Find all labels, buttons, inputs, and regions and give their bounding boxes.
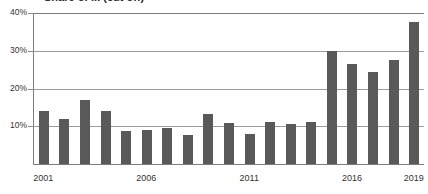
bar	[162, 128, 172, 164]
plot-area	[33, 13, 424, 164]
bar	[327, 51, 337, 164]
y-axis-tick-label: 10%	[1, 121, 27, 130]
bar	[224, 123, 234, 164]
y-tick-mark-30	[28, 51, 34, 52]
bar	[306, 122, 316, 164]
x-axis-tick-label: 2006	[136, 173, 156, 183]
bar	[142, 130, 152, 164]
x-axis-line	[33, 164, 424, 165]
x-axis-tick-label: 2001	[33, 173, 53, 183]
bar	[347, 64, 357, 164]
bar	[203, 114, 213, 164]
bar	[409, 22, 419, 164]
y-tick-mark-40	[28, 13, 34, 14]
bar	[80, 100, 90, 164]
bar	[39, 111, 49, 164]
bar	[183, 135, 193, 164]
y-tick-mark-20	[28, 89, 34, 90]
bar	[121, 131, 131, 164]
bar	[245, 134, 255, 164]
y-axis-labels: 10%20%30%40%	[0, 0, 27, 194]
bar	[286, 124, 296, 164]
y-axis-tick-label: 30%	[1, 46, 27, 55]
bar	[101, 111, 111, 164]
bar	[368, 72, 378, 164]
bar	[59, 119, 69, 164]
x-axis-tick-label: 2019	[404, 173, 424, 183]
y-tick-mark-10	[28, 126, 34, 127]
bar-chart: 10%20%30%40% 20012006201120162019	[0, 0, 428, 194]
x-axis-tick-label: 2016	[342, 173, 362, 183]
bar-series	[33, 13, 424, 164]
y-axis-tick-label: 20%	[1, 84, 27, 93]
bar	[389, 60, 399, 164]
bar	[265, 122, 275, 164]
y-axis-tick-label: 40%	[1, 8, 27, 17]
x-axis-tick-label: 2011	[240, 173, 259, 183]
